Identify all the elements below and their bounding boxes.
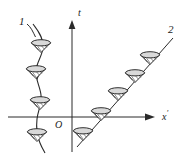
lightcone-1-a [32, 40, 51, 53]
lightcone-2-d [126, 70, 145, 83]
lightcone-1-d [28, 129, 47, 142]
worldline-2-label: 2 [168, 24, 174, 35]
x-axis-label: x′ [162, 110, 168, 122]
lightcone-group-worldline-1 [27, 40, 51, 142]
x-axis-arrowhead [145, 114, 155, 121]
t-axis-label: t [78, 8, 81, 18]
lightcone-2-a [74, 128, 93, 141]
spacetime-diagram-figure: 1 2 t x′ O [0, 0, 186, 161]
lightcone-2-e [141, 52, 160, 65]
lightcone-1-c [31, 97, 50, 110]
worldline-1-label: 1 [19, 16, 25, 27]
lightcone-2-c [109, 88, 128, 101]
diagram-canvas [0, 0, 186, 161]
lightcone-group-worldline-2 [74, 52, 160, 141]
x-axis [8, 114, 155, 121]
x-axis-prime-mark: ′ [166, 109, 168, 118]
lightcone-2-b [92, 108, 111, 121]
t-axis-arrowhead [69, 20, 76, 29]
lightcone-1-b [27, 66, 46, 79]
origin-label: O [55, 120, 62, 130]
